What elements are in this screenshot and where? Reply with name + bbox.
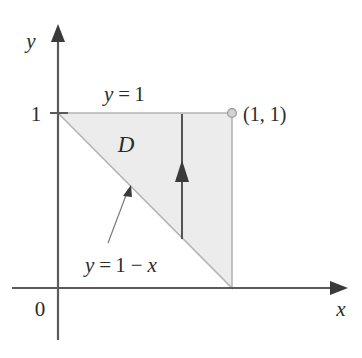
- top-boundary-equals: =: [118, 82, 130, 106]
- diagram-canvas: y x 0 1 y=1 D y=1−x (1, 1): [0, 0, 362, 358]
- hypotenuse-rhs-variable: x: [147, 253, 158, 277]
- arrow-pointer-icon: [123, 185, 132, 197]
- y-tick-label-1: 1: [31, 102, 42, 126]
- region-d-diagram: y x 0 1 y=1 D y=1−x (1, 1): [0, 0, 362, 358]
- hypotenuse-rhs-number: 1: [115, 253, 126, 277]
- top-boundary-lhs: y: [102, 82, 114, 106]
- hypotenuse-lhs: y: [83, 253, 95, 277]
- corner-point-label: (1, 1): [243, 103, 286, 126]
- hypotenuse-leader-line: [108, 190, 128, 243]
- hypotenuse-equals: =: [99, 253, 111, 277]
- origin-label: 0: [35, 297, 46, 321]
- svg-text:y=1−x: y=1−x: [83, 253, 158, 277]
- top-boundary-rhs: 1: [134, 82, 145, 106]
- region-label-d: D: [117, 132, 135, 157]
- hypotenuse-minus-sign: −: [131, 253, 143, 277]
- svg-text:y=1: y=1: [102, 82, 145, 106]
- y-axis-label: y: [24, 29, 36, 53]
- arrow-right-icon: [330, 281, 348, 295]
- x-axis-label: x: [335, 297, 346, 321]
- arrow-up-icon: [51, 24, 65, 42]
- open-circle-dot-icon: [228, 109, 237, 118]
- top-boundary-label: y=1: [102, 82, 145, 106]
- hypotenuse-label: y=1−x: [83, 253, 158, 277]
